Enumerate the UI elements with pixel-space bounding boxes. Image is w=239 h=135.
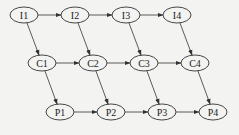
node-label: I3 [122,10,130,21]
node-p3: P3 [148,104,176,120]
edge-i3-to-c3 [129,23,141,55]
node-i2: I2 [61,7,89,23]
edge-c2-to-p2 [96,71,108,104]
edge-c3-to-p3 [147,71,159,104]
node-c3: C3 [130,55,158,71]
node-label: C4 [189,58,201,69]
edge-i4-to-c4 [180,23,192,55]
diagram-svg: I1I2I3I4C1C2C3C4P1P2P3P4 [0,0,239,135]
node-label: I4 [173,10,181,21]
node-p2: P2 [97,104,125,120]
node-label: C3 [138,58,150,69]
nodes: I1I2I3I4C1C2C3C4P1P2P3P4 [10,7,227,120]
node-c4: C4 [181,55,209,71]
edges [27,15,210,112]
node-i4: I4 [163,7,191,23]
node-label: P1 [55,107,66,118]
node-label: P3 [157,107,168,118]
node-label: C1 [36,58,48,69]
node-label: I1 [20,10,28,21]
node-c1: C1 [28,55,56,71]
node-label: I2 [71,10,79,21]
edge-i1-to-c1 [27,23,39,55]
node-p4: P4 [199,104,227,120]
edge-i2-to-c2 [78,23,90,55]
pipeline-diagram: I1I2I3I4C1C2C3C4P1P2P3P4 [0,0,239,135]
node-p1: P1 [46,104,74,120]
node-i3: I3 [112,7,140,23]
node-label: P2 [106,107,117,118]
node-label: P4 [208,107,219,118]
node-label: C2 [87,58,99,69]
edge-c4-to-p4 [198,71,210,104]
node-i1: I1 [10,7,38,23]
edge-c1-to-p1 [45,71,57,104]
node-c2: C2 [79,55,107,71]
